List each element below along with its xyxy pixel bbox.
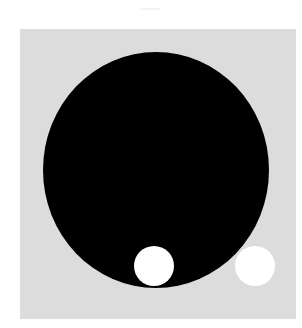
white-circle-outside-disc [235,246,275,286]
faint-top-mark [140,8,160,10]
white-circle-inside-disc [134,246,174,286]
